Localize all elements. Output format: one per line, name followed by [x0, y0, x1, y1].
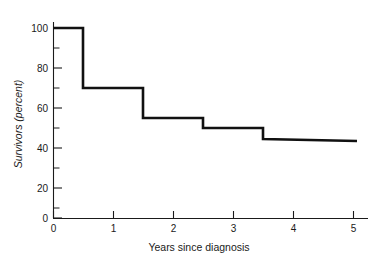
- y-tick-label-60: 60: [37, 103, 49, 114]
- y-axis-title: Survivors (percent): [12, 80, 24, 169]
- survival-curve-figure: 100 80 60 40 20 0 0 1 2 3 4 5 Years sinc…: [0, 0, 385, 269]
- x-tick-label-0: 0: [51, 223, 57, 234]
- survival-curve-plot: 100 80 60 40 20 0 0 1 2 3 4 5 Years sinc…: [0, 0, 385, 269]
- y-tick-label-0: 0: [42, 213, 48, 224]
- figure-background: [0, 0, 385, 269]
- y-tick-label-100: 100: [31, 23, 48, 34]
- x-tick-label-5: 5: [351, 223, 357, 234]
- x-tick-label-4: 4: [291, 223, 297, 234]
- x-tick-label-2: 2: [171, 223, 177, 234]
- x-axis-title: Years since diagnosis: [148, 241, 249, 253]
- x-tick-label-3: 3: [231, 223, 237, 234]
- x-tick-label-1: 1: [111, 223, 117, 234]
- y-tick-label-20: 20: [37, 183, 49, 194]
- y-tick-label-40: 40: [37, 143, 49, 154]
- y-tick-label-80: 80: [37, 63, 49, 74]
